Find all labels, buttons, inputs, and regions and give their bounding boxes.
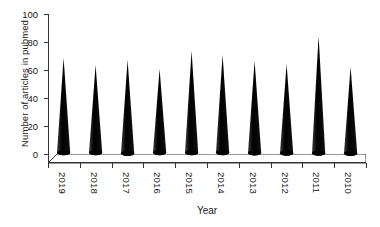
- x-axis-tick: [334, 163, 335, 168]
- x-axis-tick: [112, 163, 113, 168]
- y-axis-tick: 20: [44, 126, 48, 127]
- bar-cone: [120, 59, 135, 157]
- x-axis-tick-label: 2019: [57, 172, 68, 194]
- x-axis-tick: [48, 163, 49, 168]
- x-axis-tick: [271, 163, 272, 168]
- x-axis-title: Year: [48, 205, 366, 216]
- x-axis-tick: [175, 163, 176, 168]
- x-axis-tick-label: 2018: [89, 172, 100, 194]
- x-axis-tick-label: 2017: [121, 172, 132, 194]
- bar-cone: [279, 63, 294, 157]
- plot-area: 020406080100: [48, 14, 366, 162]
- x-axis: 2019201820172016201520142013201220112010: [48, 162, 366, 168]
- x-axis-tick-label: 2014: [216, 172, 227, 194]
- y-axis-tick-label: 0: [33, 149, 38, 160]
- x-axis-tick: [80, 163, 81, 168]
- chart-figure: Number of articles in pubmed 02040608010…: [0, 0, 380, 227]
- x-axis-tick-label: 2015: [184, 172, 195, 194]
- bar-cone: [343, 66, 358, 157]
- x-axis-tick-label: 2012: [280, 172, 291, 194]
- bar-cone: [184, 50, 199, 156]
- x-axis-tick-label: 2010: [343, 172, 354, 194]
- y-axis-tick-label: 100: [22, 9, 38, 20]
- x-axis-tick: [143, 163, 144, 168]
- bar-cone: [247, 60, 262, 157]
- y-axis-tick: 100: [44, 14, 48, 15]
- bar-cone: [215, 54, 230, 156]
- y-axis-tick-label: 60: [27, 65, 38, 76]
- y-axis-line: [48, 14, 49, 162]
- x-axis-tick: [207, 163, 208, 168]
- bar-cone: [56, 57, 71, 156]
- x-axis-tick: [366, 163, 367, 168]
- y-axis-tick-label: 40: [27, 93, 38, 104]
- x-axis-tick: [239, 163, 240, 168]
- y-axis-tick-label: 80: [27, 37, 38, 48]
- bar-cone: [152, 68, 167, 156]
- y-axis-tick: 40: [44, 98, 48, 99]
- x-axis-tick: [302, 163, 303, 168]
- bar-cone: [88, 64, 103, 156]
- y-axis-title: Number of articles in pubmed: [19, 4, 30, 164]
- y-axis-tick: 60: [44, 70, 48, 71]
- bar-cone: [311, 35, 326, 157]
- y-axis-tick-label: 20: [27, 121, 38, 132]
- x-axis-tick-label: 2016: [152, 172, 163, 194]
- x-axis-tick-label: 2013: [248, 172, 259, 194]
- x-axis-tick-label: 2011: [311, 172, 322, 193]
- y-axis-tick: 80: [44, 42, 48, 43]
